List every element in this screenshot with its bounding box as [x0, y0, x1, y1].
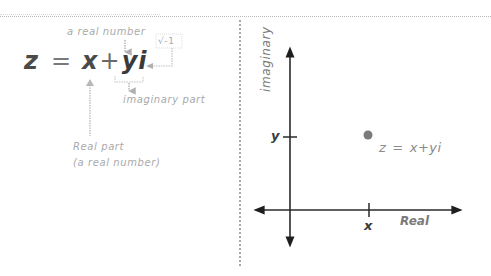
yi-bracket	[115, 76, 143, 82]
y-tick-label: y	[271, 128, 279, 143]
imaginary-axis-label: imaginary	[259, 26, 273, 92]
point-label-lhs: z	[379, 140, 386, 155]
formula-panel: a real number z=x+yi √-1 imaginary part …	[0, 0, 238, 276]
x-tick-label: x	[364, 218, 372, 233]
panel-divider	[239, 20, 241, 266]
arrow-from-sqrt	[152, 48, 172, 66]
annotation-arrows	[0, 0, 238, 276]
point-label-eq: =	[392, 140, 403, 155]
complex-plane-panel: y x z=x+yi Real	[242, 0, 491, 276]
real-axis-label: Real	[400, 214, 429, 228]
point-z-label: z=x+yi	[379, 140, 442, 155]
point-label-rhs: x+yi	[410, 140, 442, 155]
sqrt-box	[156, 34, 182, 48]
point-z	[364, 131, 373, 140]
